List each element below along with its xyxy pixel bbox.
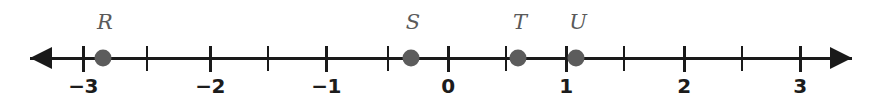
minor-tick — [387, 46, 389, 71]
point-dot-t[interactable] — [510, 50, 527, 67]
point-label-t: T — [513, 10, 527, 34]
tick-label: 2 — [677, 74, 690, 98]
tick-label: 1 — [559, 74, 572, 98]
tick-label: −1 — [311, 74, 341, 98]
point-dot-u[interactable] — [568, 50, 585, 67]
minor-tick — [741, 46, 743, 71]
minor-tick — [146, 46, 148, 71]
right-arrow-icon — [830, 47, 852, 69]
tick-label: −3 — [68, 74, 98, 98]
minor-tick — [505, 46, 507, 71]
left-arrow-icon — [30, 47, 52, 69]
major-tick — [82, 46, 85, 72]
minor-tick — [623, 46, 625, 71]
number-line-axis — [30, 57, 852, 60]
tick-label: 3 — [793, 74, 806, 98]
major-tick — [325, 46, 328, 72]
minor-tick — [267, 46, 269, 71]
point-label-u: U — [569, 10, 587, 34]
tick-label: −2 — [195, 74, 225, 98]
point-label-r: R — [97, 10, 113, 34]
major-tick — [447, 46, 450, 72]
point-dot-r[interactable] — [95, 50, 112, 67]
point-dot-s[interactable] — [403, 50, 420, 67]
major-tick — [799, 46, 802, 72]
point-label-s: S — [406, 10, 420, 34]
major-tick — [683, 46, 686, 72]
major-tick — [209, 46, 212, 72]
number-line-figure: −3−2−10123RSTU — [0, 0, 880, 105]
tick-label: 0 — [441, 74, 454, 98]
